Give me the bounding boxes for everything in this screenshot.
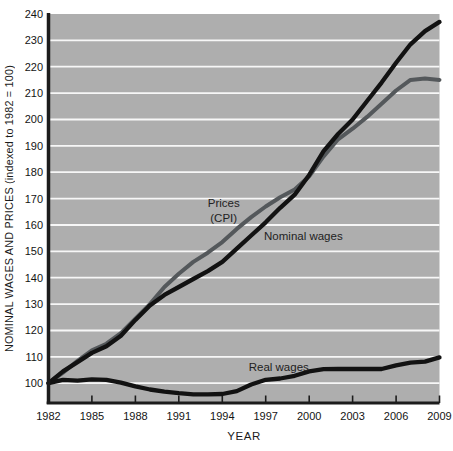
svg-text:230: 230 (25, 34, 43, 46)
y-axis-title: NOMINAL WAGES AND PRICES (indexed to 198… (0, 14, 18, 403)
svg-text:2009: 2009 (427, 410, 451, 422)
svg-text:2006: 2006 (384, 410, 408, 422)
svg-text:1994: 1994 (210, 410, 234, 422)
svg-text:2000: 2000 (297, 410, 321, 422)
svg-text:170: 170 (25, 193, 43, 205)
chart-canvas: 1001101201301401501601701801902002102202… (0, 0, 453, 451)
svg-text:1988: 1988 (123, 410, 147, 422)
svg-text:190: 190 (25, 140, 43, 152)
svg-text:220: 220 (25, 61, 43, 73)
series-label-prices-cpi: Prices (CPI) (208, 196, 240, 225)
svg-text:1997: 1997 (253, 410, 277, 422)
series-label-real-wages: Real wages (249, 359, 309, 373)
wages-prices-chart-figure: 1001101201301401501601701801902002102202… (0, 0, 453, 451)
series-label-nominal-wages: Nominal wages (264, 229, 343, 243)
svg-text:130: 130 (25, 298, 43, 310)
svg-text:120: 120 (25, 324, 43, 336)
svg-text:1985: 1985 (80, 410, 104, 422)
x-axis-title: YEAR (227, 430, 261, 442)
svg-text:100: 100 (25, 377, 43, 389)
svg-text:140: 140 (25, 272, 43, 284)
svg-text:1991: 1991 (167, 410, 191, 422)
svg-text:210: 210 (25, 87, 43, 99)
svg-text:200: 200 (25, 113, 43, 125)
svg-text:150: 150 (25, 245, 43, 257)
svg-text:1982: 1982 (36, 410, 60, 422)
svg-text:110: 110 (25, 351, 43, 363)
svg-text:2003: 2003 (340, 410, 364, 422)
svg-text:240: 240 (25, 8, 43, 20)
svg-text:180: 180 (25, 166, 43, 178)
svg-text:160: 160 (25, 219, 43, 231)
